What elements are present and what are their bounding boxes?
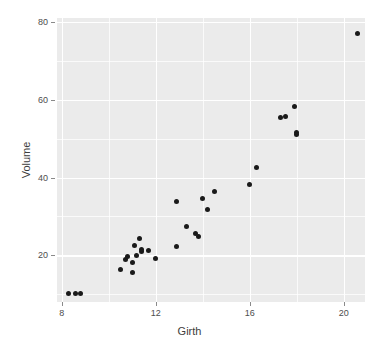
x-tick-mark [250,302,251,306]
data-point [130,270,135,275]
data-point [212,189,217,194]
data-point [132,243,137,248]
data-point [247,182,252,187]
data-point [174,244,179,249]
data-point [146,248,151,253]
data-point [200,196,205,201]
gridline-x-minor [297,18,298,302]
data-point [283,114,288,119]
y-axis-title: Volume [20,142,32,179]
data-point [205,207,210,212]
data-point [254,165,259,170]
plot-panel [57,18,365,302]
x-axis-title: Girth [0,325,379,337]
y-tick-label: 80 [38,17,48,27]
y-tick-label: 40 [38,173,48,183]
gridline-x-minor [109,18,110,302]
x-tick-mark [156,302,157,306]
data-point [130,260,135,265]
gridline-y-major [57,100,365,101]
y-tick-mark [51,100,55,101]
data-point [66,291,71,296]
x-tick-label: 20 [339,308,349,318]
data-point [174,199,179,204]
y-tick-mark [51,178,55,179]
y-tick-label: 60 [38,95,48,105]
data-point [134,253,139,258]
data-point [137,236,142,241]
gridline-y-major [57,178,365,179]
scatter-plot: 20406080 8121620 Girth Volume [0,0,379,355]
gridline-y-minor [57,216,365,217]
x-tick-mark [344,302,345,306]
data-point [184,224,189,229]
data-point [355,31,360,36]
data-point [78,291,83,296]
data-point [196,234,201,239]
x-tick-label: 8 [59,308,64,318]
gridline-y-minor [57,139,365,140]
gridline-y-minor [57,294,365,295]
y-tick-mark [51,255,55,256]
y-tick-mark [51,22,55,23]
x-tick-label: 16 [245,308,255,318]
data-point [125,254,130,259]
data-point [292,104,297,109]
data-point [153,256,158,261]
x-tick-label: 12 [151,308,161,318]
data-point [118,267,123,272]
x-tick-mark [62,302,63,306]
gridline-y-major [57,22,365,23]
gridline-y-major [57,255,365,256]
gridline-y-minor [57,61,365,62]
data-point [294,132,299,137]
gridline-x-minor [203,18,204,302]
y-tick-label: 20 [38,250,48,260]
